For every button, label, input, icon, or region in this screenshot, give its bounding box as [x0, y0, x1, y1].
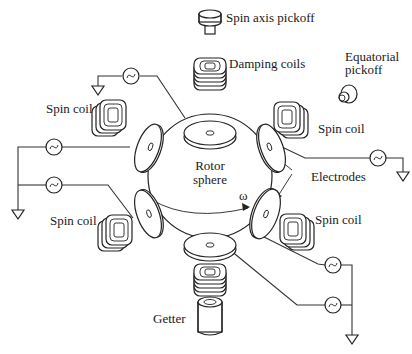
ground-icon	[12, 210, 24, 219]
spin-axis-pickoff	[199, 10, 221, 34]
label-rotor: Rotor	[195, 158, 225, 173]
damping-coil-top	[194, 58, 226, 90]
wire-left-upper-ground	[18, 147, 46, 210]
wire-right-upper	[282, 147, 370, 158]
label-spin-coil-upper-left: Spin coil	[46, 101, 93, 116]
label-electrodes: Electrodes	[311, 169, 366, 184]
label-spin-axis-pickoff: Spin axis pickoff	[226, 10, 315, 25]
wire-right-lower-ground	[341, 265, 352, 335]
label-sphere: sphere	[193, 172, 227, 187]
damping-coil-bottom	[194, 264, 226, 296]
getter	[198, 297, 222, 335]
wire-top-electrode	[140, 76, 185, 118]
ac-source-icon	[325, 257, 341, 273]
ac-source-icon	[325, 297, 341, 313]
label-damping-coils: Damping coils	[229, 56, 305, 71]
ac-source-icon	[370, 150, 386, 166]
wire-right-upper-ground	[386, 158, 403, 172]
wire-top-ground	[98, 76, 122, 86]
ac-source-icon	[46, 177, 62, 193]
spin-coil-upper-left	[92, 100, 126, 136]
ground-icon	[397, 172, 409, 181]
wire-bottom	[230, 250, 325, 305]
electrode-bottom	[184, 233, 236, 261]
spin-coil-lower-left	[98, 215, 132, 251]
ground-icon	[346, 335, 358, 344]
electrode-top	[184, 121, 236, 149]
ac-source-icon	[46, 139, 62, 155]
ground-icon	[92, 86, 104, 95]
spin-coil-upper-right	[274, 102, 308, 138]
label-omega: ω	[239, 188, 248, 203]
label-getter: Getter	[153, 311, 186, 326]
gyroscope-diagram: Spin axis pickoff Damping coils Equatori…	[0, 0, 412, 354]
label-spin-coil-lower-left: Spin coil	[50, 213, 97, 228]
label-spin-coil-upper-right: Spin coil	[318, 121, 365, 136]
spin-coil-lower-right	[280, 214, 314, 250]
label-equatorial-pickoff-2: pickoff	[345, 62, 383, 77]
ac-source-icon	[123, 68, 139, 84]
equatorial-pickoff	[339, 85, 357, 103]
electrodes-pointer-lower	[278, 174, 292, 196]
label-spin-coil-lower-right: Spin coil	[315, 212, 362, 227]
